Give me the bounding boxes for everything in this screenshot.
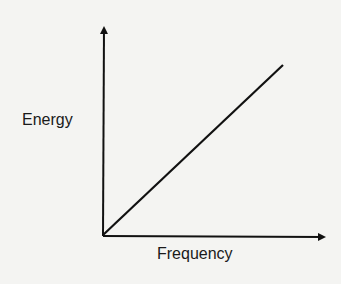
data-line bbox=[103, 65, 283, 235]
energy-frequency-diagram: Energy Frequency bbox=[0, 0, 341, 284]
y-axis bbox=[103, 28, 104, 236]
x-axis-label: Frequency bbox=[157, 245, 233, 262]
x-axis bbox=[103, 236, 324, 237]
y-axis-label: Energy bbox=[22, 111, 73, 128]
